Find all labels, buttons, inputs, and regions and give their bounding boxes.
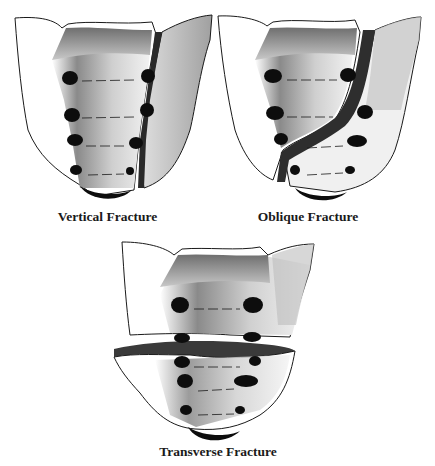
vertical-fracture-panel	[0, 0, 220, 210]
sacrum-vertical-fracture-illustration	[0, 0, 220, 210]
sacrum-transverse-fracture-illustration	[110, 235, 330, 447]
sacrum-oblique-fracture-illustration	[215, 0, 435, 210]
oblique-fracture-panel	[215, 0, 435, 210]
transverse-fracture-panel	[110, 235, 330, 447]
oblique-fracture-caption: Oblique Fracture	[243, 209, 373, 225]
transverse-fracture-caption: Transverse Fracture	[148, 444, 288, 460]
vertical-fracture-caption: Vertical Fracture	[40, 209, 175, 225]
